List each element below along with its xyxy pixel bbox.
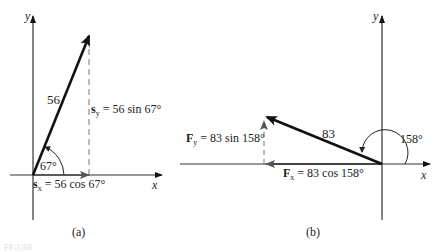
panel-b-x-axis-label: x: [420, 168, 427, 182]
panel-b-y-axis-label: y: [372, 9, 379, 23]
panel-a: y x 56 67° sy = 56 sin 67° sx = 56 cos 6…: [10, 9, 162, 239]
panel-b-angle-label: 158°: [400, 132, 423, 146]
panel-a-magnitude-label: 56: [47, 92, 61, 107]
vector-components-figure: y x 56 67° sy = 56 sin 67° sx = 56 cos 6…: [0, 0, 438, 252]
panel-b-fy-label: Fy = 83 sin 158°: [186, 131, 265, 147]
figure-label: FIGURE: [4, 243, 33, 252]
panel-a-caption: (a): [72, 225, 85, 239]
panel-a-y-axis-label: y: [24, 9, 31, 23]
panel-b-magnitude-label: 83: [322, 126, 335, 141]
panel-a-x-axis-label: x: [151, 178, 158, 192]
panel-b: y x 83 158° Fy = 83 sin 158° Fx = 83 cos…: [180, 9, 430, 239]
panel-a-sy-label: sy = 56 sin 67°: [91, 102, 161, 118]
panel-a-angle-label: 67°: [40, 159, 57, 173]
panel-a-vector-arrow: [33, 36, 89, 175]
panel-b-caption: (b): [306, 225, 320, 239]
panel-a-sx-label: sx = 56 cos 67°: [33, 177, 105, 193]
panel-b-fx-label: Fx = 83 cos 158°: [283, 166, 364, 182]
